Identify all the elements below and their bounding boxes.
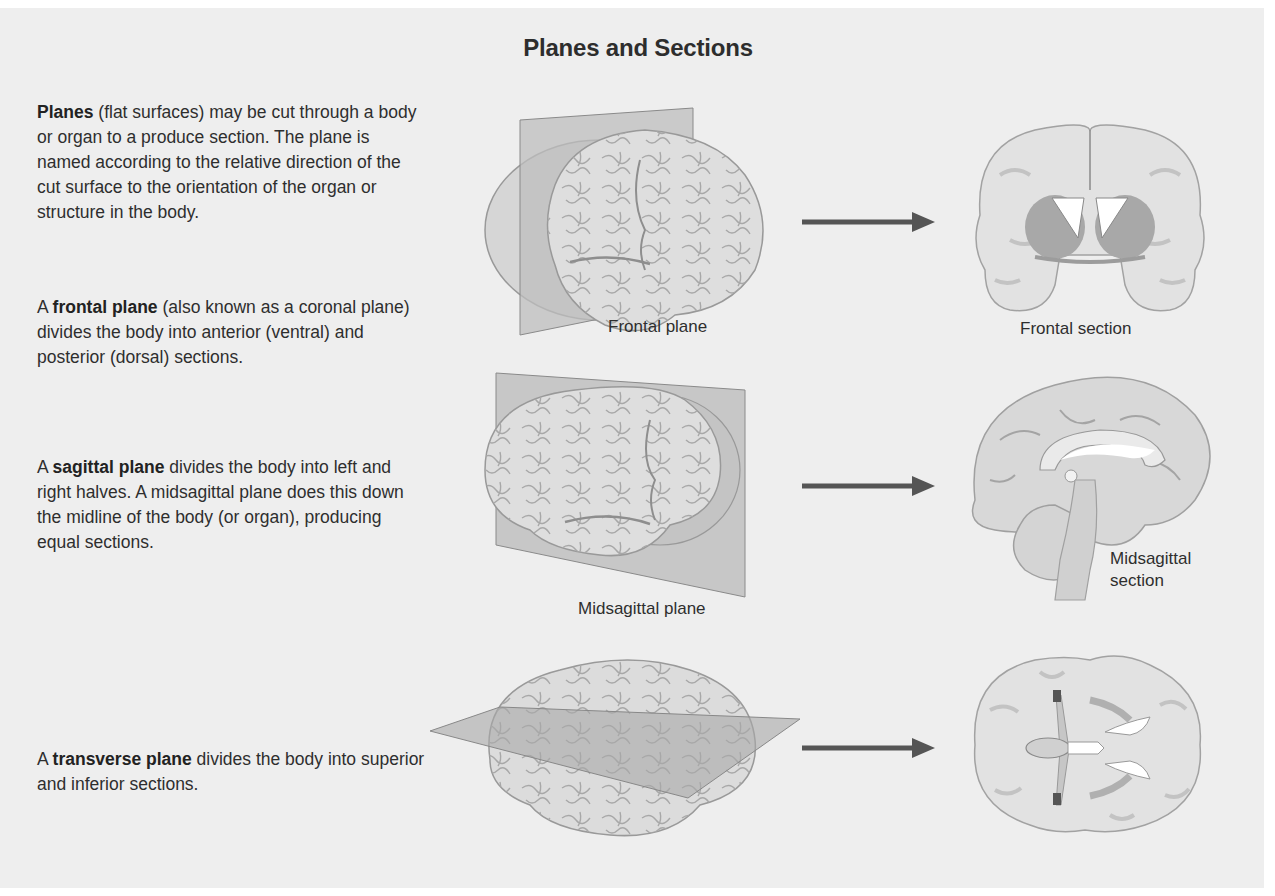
brain-midsagittal-plane-illustration — [485, 373, 745, 597]
optic-marker-bottom — [1053, 793, 1061, 805]
midsagittal-section-label-line2: section — [1110, 570, 1191, 592]
brain-transverse-plane-illustration — [430, 660, 800, 836]
third-ventricle — [1068, 742, 1104, 754]
illustrations — [0, 0, 1275, 896]
midsagittal-plane-label: Midsagittal plane — [578, 598, 706, 620]
frontal-section-label: Frontal section — [1020, 318, 1132, 340]
optic-marker-top — [1053, 690, 1061, 702]
frontal-plane-label: Frontal plane — [608, 316, 707, 338]
brain-coronal-section-illustration — [976, 125, 1204, 311]
thalamus-marker — [1065, 470, 1077, 482]
midbrain — [1026, 738, 1070, 758]
brain-axial-section-illustration — [975, 656, 1201, 832]
right-arrow-icon — [802, 476, 935, 496]
right-arrow-icon — [802, 212, 935, 232]
brain-gyri-texture — [548, 130, 764, 331]
right-arrow-icon — [802, 738, 935, 758]
midsagittal-section-label-line1: Midsagittal — [1110, 548, 1191, 570]
midsagittal-section-label: Midsagittal section — [1110, 548, 1191, 592]
brain-frontal-plane-illustration — [485, 108, 763, 335]
